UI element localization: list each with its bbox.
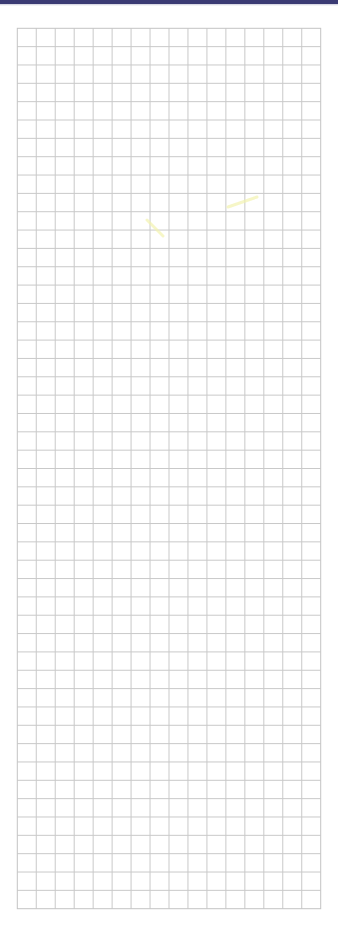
grid-paper xyxy=(0,0,338,943)
highlighter-stroke-2 xyxy=(228,197,257,207)
highlighter-stroke-1 xyxy=(147,220,163,236)
grid-lines xyxy=(17,28,320,908)
